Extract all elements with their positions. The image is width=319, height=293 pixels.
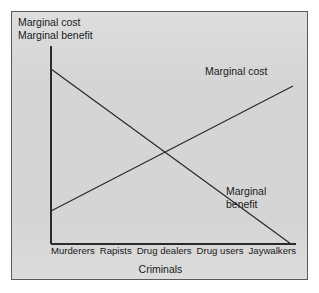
- series-label-marginal-benefit-line-1: Marginal: [226, 185, 266, 198]
- x-axis-title: Criminals: [12, 263, 308, 275]
- marginal-benefit-curve: [51, 69, 291, 244]
- x-axis-category-label: Jaywalkers: [249, 245, 296, 256]
- x-axis-category-label: Drug users: [197, 245, 244, 256]
- x-axis-category-label: Murderers: [51, 245, 95, 256]
- y-axis-caption: Marginal cost Marginal benefit: [18, 16, 93, 41]
- series-label-marginal-benefit: Marginal benefit: [226, 185, 266, 210]
- series-label-marginal-cost: Marginal cost: [205, 65, 267, 78]
- plot-area: [12, 12, 308, 280]
- figure-panel: Marginal cost Marginal benefit Marginal …: [11, 11, 308, 280]
- y-axis-caption-line-2: Marginal benefit: [18, 29, 93, 42]
- x-axis-category-label: Rapists: [100, 245, 132, 256]
- y-axis-caption-line-1: Marginal cost: [18, 16, 93, 29]
- x-axis-category-label: Drug dealers: [137, 245, 192, 256]
- series-label-marginal-benefit-line-2: benefit: [226, 198, 266, 211]
- series-label-marginal-cost-text: Marginal cost: [205, 65, 267, 77]
- x-axis-category-labels: Murderers Rapists Drug dealers Drug user…: [51, 245, 296, 256]
